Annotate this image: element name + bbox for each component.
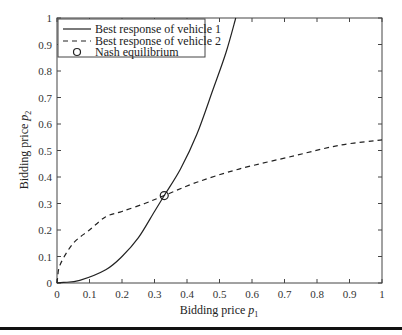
x-tick-label: 0 [54, 288, 60, 300]
legend: Best response of vehicle 1 Best response… [58, 19, 221, 59]
x-tick-label: 0.5 [213, 288, 227, 300]
y-tick-label: 1 [47, 12, 53, 24]
x-tick-label: 0.2 [115, 288, 129, 300]
y-tick-label: 0.5 [38, 145, 52, 157]
y-tick-label: 0.4 [38, 171, 52, 183]
x-tick-label: 0.9 [343, 288, 357, 300]
legend-label-nash: Nash equilibrium [95, 45, 179, 59]
y-tick-label: 0 [47, 277, 53, 289]
y-tick-label: 0.8 [38, 65, 52, 77]
bottom-rule-divider [0, 327, 402, 330]
x-tick-label: 0.6 [245, 288, 259, 300]
y-tick-label: 0.2 [38, 224, 52, 236]
x-tick-label: 0.7 [278, 288, 292, 300]
y-tick-label: 0.3 [38, 198, 52, 210]
x-tick-label: 0.1 [83, 288, 97, 300]
y-tick-label: 0.6 [38, 118, 52, 130]
y-tick-label: 0.1 [38, 251, 52, 263]
x-tick-label: 1 [379, 288, 385, 300]
y-tick-label: 0.9 [38, 39, 52, 51]
y-axis-label: Bidding price p2 [17, 111, 33, 190]
x-tick-label: 0.8 [310, 288, 324, 300]
x-axis-label: Bidding price p1 [180, 303, 259, 319]
y-tick-label: 0.7 [38, 92, 52, 104]
x-tick-label: 0.4 [180, 288, 194, 300]
best-response-vehicle-2-line [57, 140, 382, 283]
x-axis-ticks: 00.10.20.30.40.50.60.70.80.91 [54, 18, 385, 300]
x-tick-label: 0.3 [148, 288, 162, 300]
chart-canvas: 00.10.20.30.40.50.60.70.80.91 00.10.20.3… [0, 0, 402, 335]
